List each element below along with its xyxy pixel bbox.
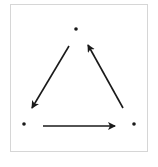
node-left	[22, 122, 26, 126]
cycle-diagram	[0, 0, 158, 167]
arrow-right-to-top	[88, 45, 123, 108]
node-right	[132, 122, 136, 126]
arrow-top-to-left	[32, 46, 69, 108]
node-top	[74, 27, 78, 31]
